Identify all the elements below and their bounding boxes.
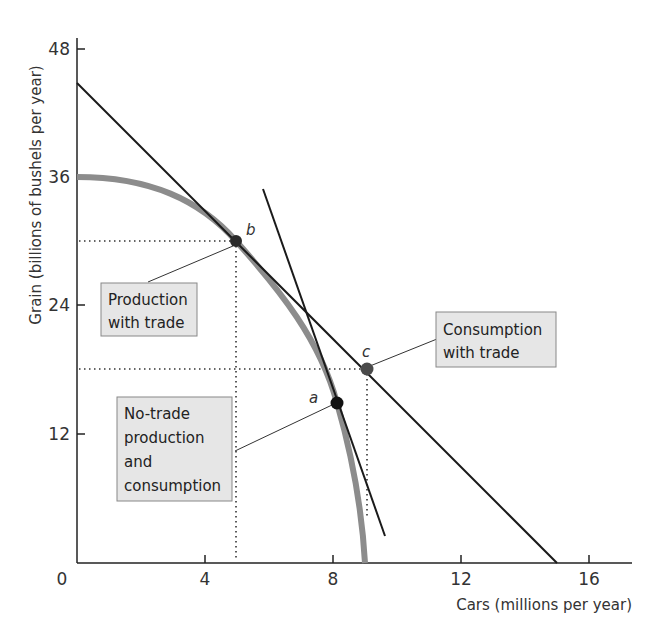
chart: 48 36 24 12 0 4 8 12 16 Cars (millions p… [0,0,659,639]
x-tick-12: 12 [450,569,472,589]
svg-text:No-trade: No-trade [124,405,190,423]
svg-text:production: production [124,429,205,447]
point-b-label: b [246,221,256,239]
box-no-trade: No-trade production and consumption [117,397,232,501]
svg-text:consumption: consumption [124,477,221,495]
svg-text:with trade: with trade [108,314,185,332]
point-b [230,235,242,247]
point-a-label: a [309,389,318,407]
y-ticks [77,49,85,434]
x-tick-4: 4 [200,569,211,589]
svg-text:with trade: with trade [443,344,520,362]
no-trade-price-line [263,189,385,536]
x-ticks [205,555,589,563]
y-tick-12: 12 [48,424,70,444]
ppf-curve [77,177,365,563]
svg-text:and: and [124,453,152,471]
y-axis-title: Grain (billions of bushels per year) [27,65,45,324]
y-tick-48: 48 [48,39,70,59]
x-tick-16: 16 [578,569,600,589]
x-axis-title: Cars (millions per year) [456,596,632,614]
origin-label: 0 [57,569,68,589]
box-production-with-trade: Production with trade [101,283,197,336]
y-tick-36: 36 [48,167,70,187]
svg-text:Consumption: Consumption [443,321,542,339]
point-a [331,397,344,410]
point-c-label: c [362,343,371,361]
point-c [361,363,374,376]
svg-text:Production: Production [108,291,188,309]
y-tick-24: 24 [48,295,70,315]
x-tick-8: 8 [328,569,339,589]
box-consumption-with-trade: Consumption with trade [436,312,556,367]
